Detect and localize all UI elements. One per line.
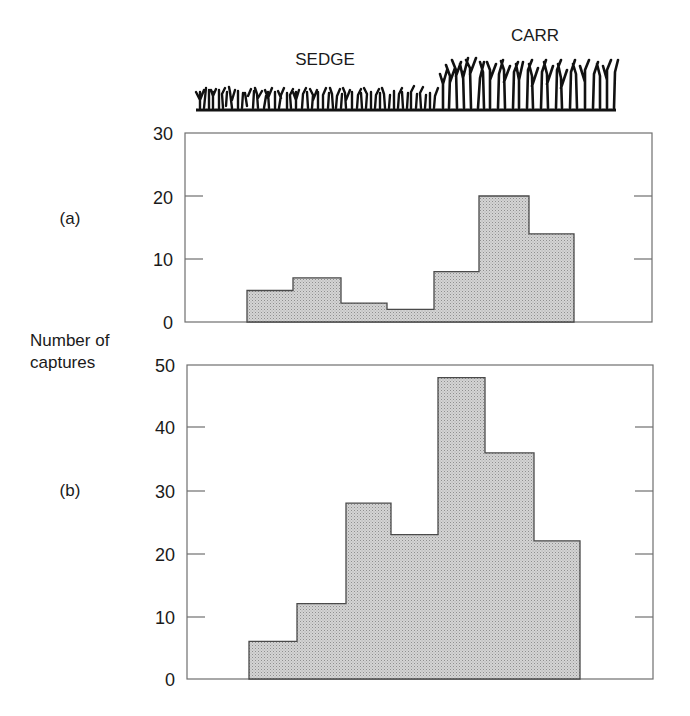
carr-label: CARR [511, 26, 559, 45]
y-tick-label: 10 [153, 250, 173, 270]
y-tick-label: 20 [155, 545, 175, 565]
histogram-b [249, 378, 580, 679]
figure: SEDGE CARR (a) 30 20 10 0 Number of capt… [0, 0, 690, 716]
panel-b-label: (b) [60, 481, 81, 500]
y-tick-label: 0 [165, 670, 175, 690]
y-tick-label: 30 [155, 482, 175, 502]
y-tick-label: 0 [163, 313, 173, 333]
sedge-vegetation-icon [196, 86, 438, 108]
y-tick-label: 10 [155, 608, 175, 628]
panel-a-label: (a) [60, 209, 81, 228]
y-axis-label-line1: Number of [30, 331, 110, 350]
y-tick-label: 20 [153, 188, 173, 208]
y-tick-label: 30 [153, 124, 173, 144]
chart-a: (a) 30 20 10 0 [60, 124, 652, 333]
y-tick-label: 40 [155, 418, 175, 438]
chart-b: (b) 50 40 30 20 10 0 [60, 356, 653, 690]
vegetation-illustration [196, 58, 618, 110]
carr-vegetation-icon [440, 58, 618, 108]
y-tick-label: 50 [155, 356, 175, 376]
sedge-label: SEDGE [295, 50, 355, 69]
histogram-a [247, 196, 574, 322]
y-axis-label-line2: captures [30, 353, 95, 372]
